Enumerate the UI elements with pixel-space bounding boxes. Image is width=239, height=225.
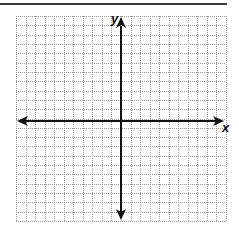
x-axis-label: x bbox=[222, 121, 229, 134]
coordinate-plane bbox=[0, 0, 239, 225]
y-axis bbox=[116, 17, 126, 220]
y-axis-label: y bbox=[111, 12, 118, 25]
